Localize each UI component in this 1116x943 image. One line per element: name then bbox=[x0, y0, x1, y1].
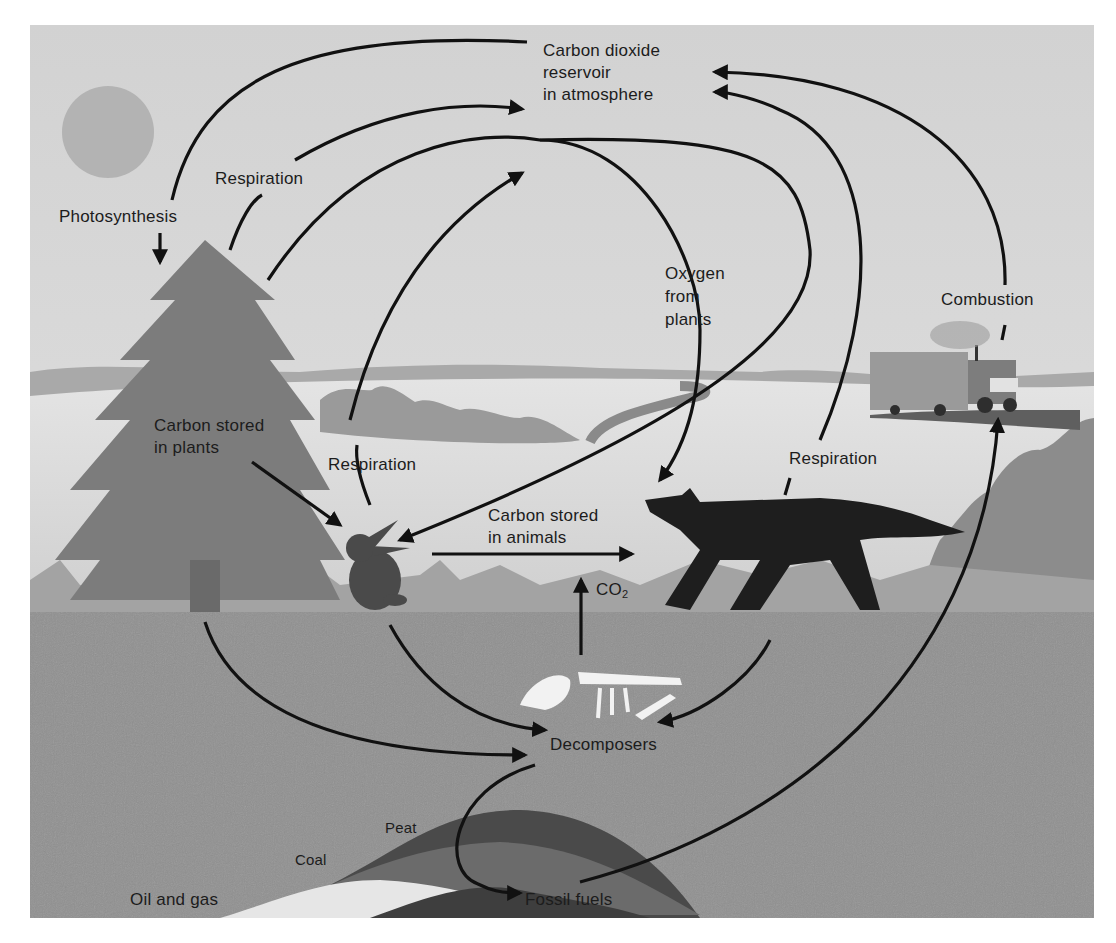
label-oxygen: Oxygen from plants bbox=[665, 262, 725, 331]
label-photosynthesis: Photosynthesis bbox=[59, 207, 177, 227]
sun-icon bbox=[62, 86, 154, 178]
label-carbon-plants: Carbon stored in plants bbox=[154, 415, 264, 459]
label-respiration-plants: Respiration bbox=[215, 169, 303, 189]
label-respiration-wolf: Respiration bbox=[789, 449, 877, 469]
label-fossil-fuels: Fossil fuels bbox=[525, 890, 612, 910]
co2-main: CO bbox=[596, 580, 622, 599]
label-oil-gas: Oil and gas bbox=[130, 890, 218, 910]
label-respiration-rabbit: Respiration bbox=[328, 455, 416, 475]
co2-subscript: 2 bbox=[622, 588, 628, 600]
label-coal: Coal bbox=[295, 850, 327, 870]
label-co2: CO2 bbox=[596, 580, 628, 604]
label-decomposers: Decomposers bbox=[550, 735, 657, 755]
label-carbon-animals: Carbon stored in animals bbox=[488, 505, 598, 549]
label-reservoir: Carbon dioxide reservoir in atmosphere bbox=[543, 40, 660, 106]
label-peat: Peat bbox=[385, 818, 417, 838]
carbon-cycle-diagram bbox=[0, 0, 1116, 943]
label-combustion: Combustion bbox=[941, 290, 1034, 310]
